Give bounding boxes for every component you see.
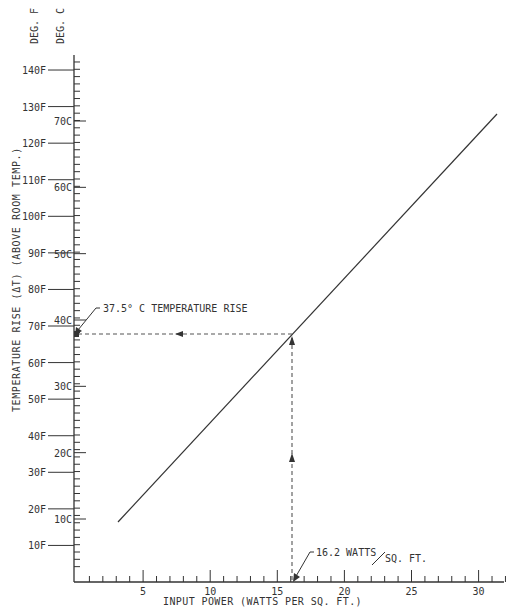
y-tick-label-c: 60C [54,182,72,193]
y-tick-label-c: 70C [54,116,72,127]
x-tick-label: 5 [140,586,146,597]
y-tick-label-c: 50C [54,249,72,260]
y-tick-label-f: 80F [28,284,46,295]
watts-annotation-denominator: SQ. FT. [385,553,427,564]
y-tick-label-f: 20F [28,504,46,515]
annotation-leader-line [295,552,314,578]
y-tick-label-f: 50F [28,394,46,405]
y-tick-label-f: 140F [22,65,46,76]
y-tick-label-c: 30C [54,381,72,392]
annotation-leader-line [78,308,100,330]
y-tick-label-c: 10C [54,514,72,525]
y-tick-label-f: 60F [28,358,46,369]
y-tick-label-f: 90F [28,248,46,259]
y-tick-label-f: 130F [22,102,46,113]
data-series-line [118,114,497,522]
arrow-left-icon [175,331,183,337]
x-axis-title: INPUT POWER (WATTS PER SQ. FT.) [163,596,362,607]
arrow-up-icon [289,453,295,462]
marker [74,331,79,337]
y-tick-label-f: 110F [22,175,46,186]
y-tick-label-f: 30F [28,467,46,478]
arrow-head-icon [293,573,300,582]
deg-c-header: DEG. C [55,8,66,44]
x-tick-label: 25 [405,586,417,597]
deg-f-header: DEG. F [29,8,40,44]
x-tick-label: 30 [473,586,485,597]
y-tick-label-f: 40F [28,431,46,442]
axes [74,55,504,582]
chart: DEG. F DEG. C TEMPERATURE RISE (ΔT) (ABO… [0,0,508,615]
temperature-rise-annotation: 37.5° C TEMPERATURE RISE [103,303,248,314]
y-axis-title: TEMPERATURE RISE (ΔT) (ABOVE ROOM TEMP.) [11,147,22,412]
y-axis-tick-labels: 10F20F30F40F50F60F70F80F90F100F110F120F1… [22,65,72,551]
y-tick-label-f: 100F [22,211,46,222]
y-tick-label-f: 70F [28,321,46,332]
watts-annotation: 16.2 WATTS [316,547,376,558]
y-tick-label-c: 20C [54,448,72,459]
y-tick-label-f: 120F [22,138,46,149]
y-tick-label-f: 10F [28,540,46,551]
y-tick-label-c: 40C [54,315,72,326]
